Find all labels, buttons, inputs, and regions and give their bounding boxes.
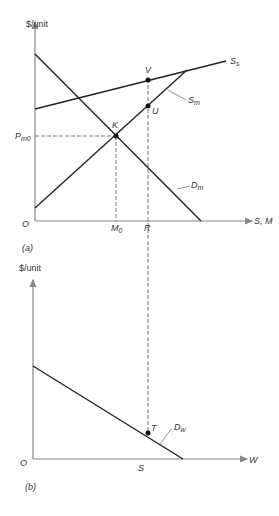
origin-label-b: O xyxy=(20,458,27,468)
v-label: V xyxy=(145,65,152,75)
t-label: T xyxy=(151,423,158,433)
caption-a: (a) xyxy=(22,243,33,253)
sm-label: Sm xyxy=(188,95,200,106)
panel-a-curves xyxy=(35,54,226,221)
k-label: K xyxy=(112,120,119,130)
x-axis-label-b: W xyxy=(249,455,259,465)
pm0-label: Pm0 xyxy=(15,131,31,142)
point-u xyxy=(146,104,151,109)
y-axis-label-a: $/unit xyxy=(26,19,49,29)
sm-curve xyxy=(35,70,187,208)
u-label: U xyxy=(152,106,159,116)
caption-b: (b) xyxy=(25,482,36,492)
point-k xyxy=(114,134,119,139)
panel-a-guides xyxy=(35,79,148,433)
origin-label-a: O xyxy=(22,219,29,229)
r-label: R xyxy=(144,223,151,233)
point-t xyxy=(146,431,151,436)
dm-leader xyxy=(177,186,190,189)
point-v xyxy=(146,78,151,83)
dw-label: Dw xyxy=(174,422,187,433)
dm-label: Dm xyxy=(191,180,204,191)
diagram: $/unit S, M O (a) Pm0 M0 R Ss Sm Dm K V … xyxy=(0,0,279,516)
panel-a-axes xyxy=(35,22,252,221)
y-axis-label-b: $/unit xyxy=(19,263,42,273)
sm-leader xyxy=(168,90,186,100)
ss-label: Ss xyxy=(230,56,240,67)
dw-leader xyxy=(160,428,172,444)
m0-label: M0 xyxy=(111,223,123,234)
x-axis-label-a: S, M xyxy=(254,216,273,226)
dw-curve xyxy=(33,366,183,459)
s-label: S xyxy=(138,463,144,473)
